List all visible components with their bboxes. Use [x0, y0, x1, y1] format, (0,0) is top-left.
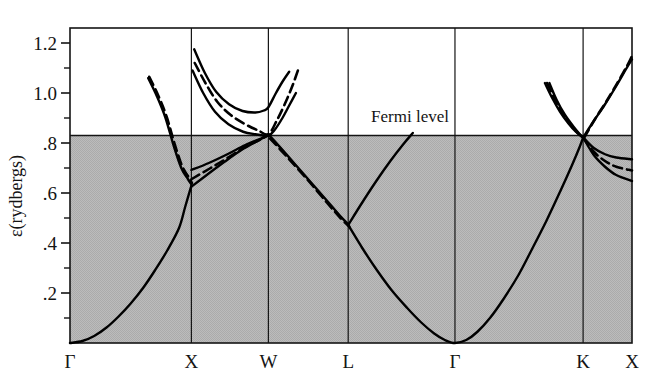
x-kpoint-label: K: [576, 351, 590, 372]
x-kpoint-label: Γ: [65, 351, 76, 372]
occupied-states-shading: [70, 136, 632, 344]
y-tick-label: .8: [43, 133, 57, 154]
fermi-level-label: Fermi level: [371, 107, 449, 126]
plot-annotations: Fermi level: [371, 107, 449, 126]
x-kpoint-label: W: [259, 351, 277, 372]
x-kpoint-label: X: [185, 351, 199, 372]
y-tick-label: .4: [43, 233, 58, 254]
y-tick-label: .6: [43, 183, 57, 204]
y-axis-title: ε(rydbergs): [6, 155, 27, 237]
y-tick-label: .2: [43, 283, 57, 304]
y-tick-label: 1.2: [33, 33, 57, 54]
x-kpoint-label: L: [342, 351, 354, 372]
x-kpoint-label: Γ: [449, 351, 460, 372]
band-structure-figure: 1.21.0.8.6.4.2 ΓXWLΓKX Fermi level ε(ryd…: [0, 0, 647, 379]
y-tick-label: 1.0: [33, 83, 57, 104]
x-kpoint-label: X: [625, 351, 639, 372]
